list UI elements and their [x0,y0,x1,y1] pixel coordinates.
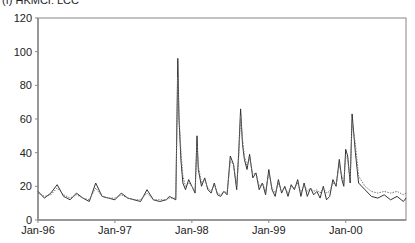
x-axis: Jan-96Jan-97Jan-98Jan-99Jan-00 [21,220,362,236]
series-line-solid [38,58,406,201]
series-line-dotted [38,77,406,200]
x-tick-label: Jan-97 [98,224,132,236]
y-tick-label: 40 [20,147,32,159]
x-tick-label: Jan-96 [21,224,55,236]
x-tick-label: Jan-00 [329,224,363,236]
line-chart: 020406080100120 Jan-96Jan-97Jan-98Jan-99… [0,0,415,243]
y-axis: 020406080100120 [14,12,38,226]
data-series [38,58,406,201]
y-tick-label: 60 [20,113,32,125]
x-tick-label: Jan-98 [175,224,209,236]
y-tick-label: 80 [20,79,32,91]
y-tick-label: 20 [20,180,32,192]
x-tick-label: Jan-99 [252,224,286,236]
y-tick-label: 100 [14,46,32,58]
y-tick-label: 120 [14,12,32,24]
